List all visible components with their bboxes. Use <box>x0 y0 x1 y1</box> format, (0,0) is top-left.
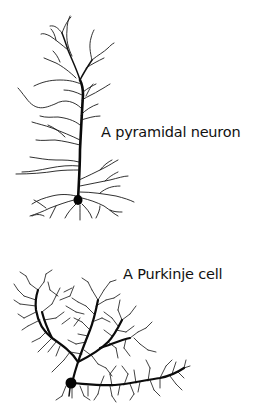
purkinje-cell-label: A Purkinje cell <box>123 266 222 282</box>
purkinje-soma <box>66 378 77 389</box>
pyramidal-neuron-label: A pyramidal neuron <box>101 124 240 140</box>
purkinje-cell-drawing <box>0 0 258 418</box>
neuron-comparison-figure: A pyramidal neuron A Purkinje cell <box>0 0 258 418</box>
